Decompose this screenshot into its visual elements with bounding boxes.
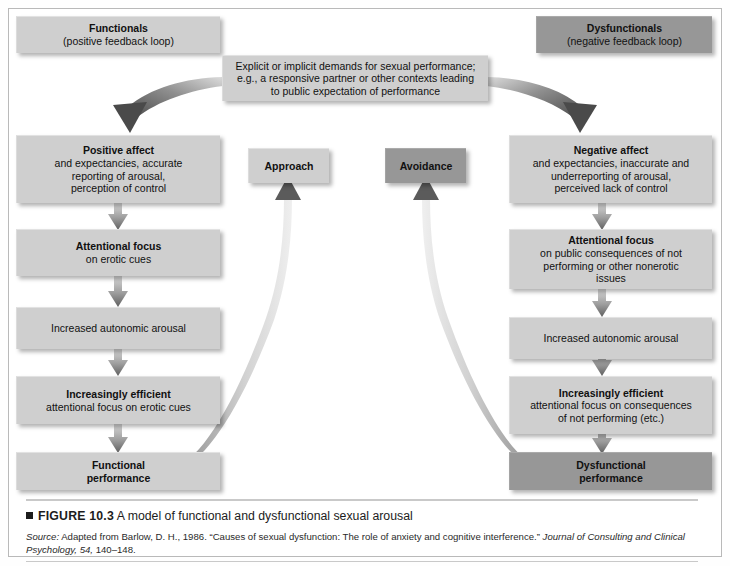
left-focus-line-1: on erotic cues: [86, 253, 151, 266]
arrow-left-efficient-to-outcome: [108, 424, 128, 453]
left-efficient-title: Increasingly efficient: [66, 388, 170, 401]
arrow-left-arousal-to-efficient: [108, 349, 128, 376]
functionals-subtitle: (positive feedback loop): [63, 35, 174, 48]
right-autonomic-arousal-box: Increased autonomic arousal: [509, 317, 712, 359]
dysfunctionals-subtitle: (negative feedback loop): [567, 35, 682, 48]
figure-source-line: Source: Adapted from Barlow, D. H., 1986…: [26, 530, 686, 556]
demands-line-2: e.g., a responsive partner or other cont…: [237, 72, 474, 85]
right-focus-title: Attentional focus: [568, 234, 654, 247]
approach-box: Approach: [248, 148, 329, 183]
right-efficient-title: Increasingly efficient: [559, 387, 663, 400]
dysfunctional-performance-line-1: Dysfunctional: [576, 459, 645, 472]
source-label: Source:: [26, 531, 59, 542]
dysfunctionals-title: Dysfunctionals: [587, 22, 662, 35]
right-efficient-line-1: attentional focus on consequences: [530, 399, 692, 412]
left-affect-title: Positive affect: [83, 144, 154, 157]
header-box-functionals: Functionals (positive feedback loop): [16, 16, 220, 53]
functionals-title: Functionals: [89, 22, 148, 35]
functional-performance-line-1: Functional: [92, 459, 145, 472]
right-increasingly-efficient-box: Increasingly efficient attentional focus…: [509, 376, 712, 434]
left-affect-line-3: perception of control: [71, 182, 166, 195]
arrow-demands-to-negative-affect: [487, 77, 597, 133]
avoidance-label: Avoidance: [400, 160, 453, 173]
source-pages: 140–148.: [93, 544, 136, 555]
approach-label: Approach: [264, 160, 313, 173]
right-focus-line-1: on public consequences of not: [540, 247, 682, 260]
figure-number: FIGURE 10.3: [38, 509, 114, 523]
avoidance-box: Avoidance: [385, 148, 466, 183]
left-increasingly-efficient-box: Increasingly efficient attentional focus…: [16, 376, 220, 424]
arrow-left-focus-to-arousal: [108, 276, 128, 307]
right-affect-title: Negative affect: [574, 144, 649, 157]
right-affect-line-1: and expectancies, inaccurate and: [533, 157, 689, 170]
functional-performance-line-2: performance: [87, 472, 151, 485]
right-focus-line-3: issues: [596, 272, 626, 285]
figure-title-line: FIGURE 10.3 A model of functional and dy…: [26, 509, 706, 523]
right-attentional-focus-box: Attentional focus on public consequences…: [509, 229, 712, 289]
right-affect-line-2: underreporting of arousal,: [551, 170, 671, 183]
left-focus-title: Attentional focus: [76, 240, 162, 253]
arrow-demands-to-positive-affect: [113, 77, 223, 133]
right-affect-line-3: perceived lack of control: [554, 182, 667, 195]
left-attentional-focus-box: Attentional focus on erotic cues: [16, 229, 220, 276]
source-text: Adapted from Barlow, D. H., 1986. “Cause…: [59, 531, 543, 542]
right-efficient-line-2: of not performing (etc.): [558, 412, 664, 425]
figure-title-text: A model of functional and dysfunctional …: [114, 509, 413, 523]
right-arousal-text: Increased autonomic arousal: [544, 332, 679, 345]
figure-page: Functionals (positive feedback loop) Dys…: [0, 0, 730, 566]
dysfunctional-performance-box: Dysfunctional performance: [509, 452, 712, 490]
dysfunctional-performance-line-2: performance: [579, 472, 643, 485]
demands-line-1: Explicit or implicit demands for sexual …: [236, 60, 476, 73]
figure-marker-icon: [26, 512, 33, 519]
left-affect-line-1: and expectancies, accurate: [55, 157, 183, 170]
diagram-canvas: Functionals (positive feedback loop) Dys…: [0, 0, 730, 495]
caption-rule-bottom: [26, 561, 698, 562]
left-affect-line-2: reporting of arousal,: [72, 170, 165, 183]
header-box-dysfunctionals: Dysfunctionals (negative feedback loop): [536, 16, 712, 53]
demands-line-3: to public expectation of performance: [271, 85, 440, 98]
arrow-right-focus-to-arousal: [592, 289, 612, 317]
figure-caption: FIGURE 10.3 A model of functional and dy…: [0, 495, 730, 566]
functional-performance-box: Functional performance: [16, 452, 220, 490]
left-positive-affect-box: Positive affect and expectancies, accura…: [16, 135, 220, 203]
left-arousal-text: Increased autonomic arousal: [51, 322, 186, 335]
arrow-left-affect-to-focus: [108, 203, 128, 230]
left-efficient-line-1: attentional focus on erotic cues: [46, 401, 191, 414]
arrow-right-affect-to-focus: [592, 203, 612, 230]
demands-box: Explicit or implicit demands for sexual …: [222, 55, 488, 101]
caption-rule-top: [26, 499, 698, 501]
right-negative-affect-box: Negative affect and expectancies, inaccu…: [509, 135, 712, 203]
left-autonomic-arousal-box: Increased autonomic arousal: [16, 307, 220, 349]
right-focus-line-2: performing or other nonerotic: [543, 260, 678, 273]
